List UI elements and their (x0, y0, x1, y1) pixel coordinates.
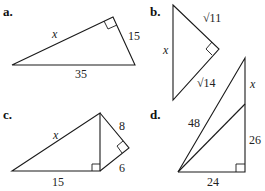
triangle-a: a. x 15 35 (3, 4, 140, 81)
label-b-sqrt14: √14 (197, 76, 216, 90)
label-d-24: 24 (207, 175, 219, 189)
label-b-sqrt11: √11 (203, 11, 221, 25)
label-c-8: 8 (119, 119, 125, 133)
triangle-a-shape (12, 17, 135, 65)
part-label-c: c. (3, 107, 12, 122)
label-d-26: 26 (249, 133, 261, 147)
triangle-c-left-shape (12, 113, 100, 171)
label-b-x: x (162, 43, 169, 57)
diagram-canvas: a. x 15 35 b. √11 x √14 c. x 8 6 15 d. 4… (0, 0, 265, 191)
part-label-d: d. (150, 107, 160, 122)
label-c-x: x (52, 128, 59, 142)
label-d-x: x (249, 77, 256, 91)
right-angle-marker-c-foot (92, 164, 100, 171)
right-angle-marker-c-side (117, 141, 123, 153)
label-c-15: 15 (52, 175, 64, 189)
label-a-15: 15 (128, 29, 140, 43)
part-label-b: b. (150, 4, 160, 19)
triangle-b: b. √11 x √14 (150, 4, 221, 100)
label-a-35: 35 (75, 67, 87, 81)
right-angle-marker-d (236, 164, 245, 172)
part-label-a: a. (3, 4, 13, 19)
label-a-x: x (51, 27, 58, 41)
label-d-48: 48 (188, 116, 200, 130)
triangle-c: c. x 8 6 15 (3, 107, 129, 189)
label-c-6: 6 (119, 161, 125, 175)
right-angle-marker-b (206, 42, 212, 55)
